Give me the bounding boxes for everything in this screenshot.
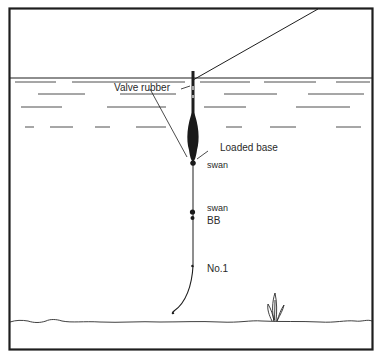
weed bbox=[268, 293, 284, 321]
river-bed bbox=[10, 320, 372, 323]
label-swan-upper: swan bbox=[207, 161, 228, 170]
antenna-marking bbox=[192, 95, 193, 98]
diagram-canvas: Valve rubber Loaded base swan swan BB No… bbox=[0, 0, 377, 358]
label-loaded-base: Loaded base bbox=[220, 143, 278, 153]
split-shot-swan-lower bbox=[190, 209, 195, 214]
frame bbox=[10, 9, 373, 350]
label-bb: BB bbox=[207, 216, 220, 226]
label-no1: No.1 bbox=[207, 264, 228, 274]
diagram-drawing bbox=[0, 0, 377, 358]
hook bbox=[173, 311, 175, 313]
loaded-base-pointer bbox=[197, 151, 208, 159]
split-shot-swan-upper bbox=[190, 160, 195, 165]
float-body bbox=[187, 110, 198, 162]
valve-rubber-pointer bbox=[181, 86, 190, 89]
valve-rubber bbox=[192, 86, 193, 90]
label-swan-lower: swan bbox=[207, 204, 228, 213]
hook-length bbox=[174, 266, 193, 311]
fishing-line bbox=[193, 9, 318, 80]
valve-rubber-pointer-long bbox=[150, 89, 187, 157]
split-shot-bb bbox=[191, 216, 195, 220]
label-valve-rubber: Valve rubber bbox=[114, 83, 170, 93]
